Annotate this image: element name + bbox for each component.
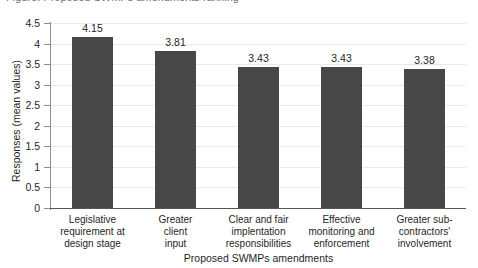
bar-value-label: 3.81	[146, 37, 206, 48]
bar	[72, 37, 113, 208]
bar-value-label: 3.38	[395, 55, 455, 66]
y-axis-tick-mark	[44, 64, 50, 65]
x-axis-title: Proposed SWMPs amendments	[51, 252, 466, 264]
x-axis-category-line: requirement at	[47, 226, 138, 238]
y-axis-tick-mark	[44, 208, 50, 209]
y-axis-tick-label: 1.5	[0, 141, 40, 152]
bar-value-label: 4.15	[63, 23, 123, 34]
x-axis-category-line: Greater sub-	[379, 214, 470, 226]
y-axis-tick-label: 2	[0, 121, 40, 132]
y-axis-tick-mark	[44, 167, 50, 168]
x-axis-category-line: implentation	[213, 226, 304, 238]
x-axis-category-line: Effective	[296, 214, 387, 226]
x-axis-category-label: Effectivemonitoring andenforcement	[296, 214, 387, 251]
y-axis-tick-label: 1	[0, 162, 40, 173]
y-axis-tick-label: 0	[0, 203, 40, 214]
bar	[238, 67, 279, 208]
y-axis-tick-label: 2.5	[0, 100, 40, 111]
x-axis-category-line: client	[130, 226, 221, 238]
x-axis-category-line: monitoring and	[296, 226, 387, 238]
y-axis-tick-label: 3	[0, 80, 40, 91]
x-axis-category-label: Greaterclientinput	[130, 214, 221, 251]
gridline	[51, 44, 466, 45]
y-axis-line	[50, 22, 51, 210]
x-axis-category-line: contractors'	[379, 226, 470, 238]
bar	[404, 69, 445, 208]
bar-value-label: 3.43	[229, 53, 289, 64]
bar-chart: Responses (mean values) Proposed SWMPs a…	[0, 9, 478, 268]
y-axis-tick-mark	[44, 187, 50, 188]
y-axis-tick-mark	[44, 23, 50, 24]
y-axis-tick-label: 3.5	[0, 59, 40, 70]
x-axis-category-label: Clear and fairimplentationresponsibiliti…	[213, 214, 304, 251]
bar	[155, 51, 196, 208]
y-axis-tick-label: 4	[0, 39, 40, 50]
x-axis-category-line: involvement	[379, 238, 470, 250]
y-axis-tick-mark	[44, 105, 50, 106]
x-axis-category-label: Greater sub-contractors'involvement	[379, 214, 470, 251]
y-axis-tick-mark	[44, 146, 50, 147]
figure-caption-sliver: Figure: Proposed SWMPs amendments rankin…	[0, 0, 478, 9]
x-axis-category-line: input	[130, 238, 221, 250]
x-axis-category-label: Legislativerequirement atdesign stage	[47, 214, 138, 251]
y-axis-tick-mark	[44, 126, 50, 127]
bar	[321, 67, 362, 208]
y-axis-tick-mark	[44, 44, 50, 45]
y-axis-tick-label: 4.5	[0, 18, 40, 29]
y-axis-tick-mark	[44, 85, 50, 86]
x-axis-category-line: responsibilities	[213, 238, 304, 250]
y-axis-tick-label: 0.5	[0, 182, 40, 193]
x-axis-category-line: Clear and fair	[213, 214, 304, 226]
figure-caption-text: Figure: Proposed SWMPs amendments rankin…	[6, 0, 239, 3]
x-axis-category-line: Legislative	[47, 214, 138, 226]
x-axis-category-line: enforcement	[296, 238, 387, 250]
x-axis-category-line: design stage	[47, 238, 138, 250]
x-axis-category-line: Greater	[130, 214, 221, 226]
x-axis-line	[50, 208, 466, 209]
bar-value-label: 3.43	[312, 53, 372, 64]
